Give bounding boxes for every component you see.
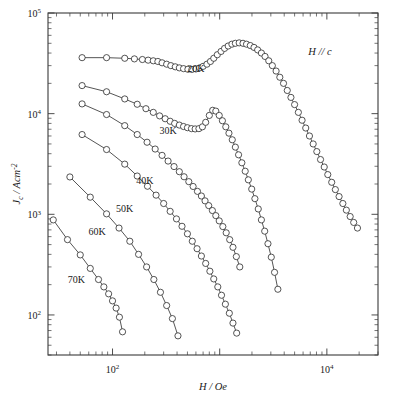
data-point [284, 87, 290, 93]
data-point [271, 269, 277, 275]
series-label-40K: 40K [136, 175, 154, 186]
data-point [144, 139, 150, 145]
series-label-30K: 30K [159, 125, 177, 136]
data-point [79, 131, 85, 137]
data-point [325, 172, 331, 178]
data-point [134, 101, 140, 107]
data-point [249, 186, 255, 192]
data-point [164, 302, 170, 308]
data-point [223, 124, 229, 130]
figure-panel: 102104 102103104105 20K30K40K50K60K70K H… [0, 0, 396, 399]
data-point [184, 231, 190, 237]
data-point [157, 289, 163, 295]
data-point [306, 133, 312, 139]
data-point [310, 141, 316, 147]
data-point [159, 152, 165, 158]
data-point [122, 55, 128, 61]
x-axis-title: H / Oe [198, 381, 227, 392]
data-point [152, 146, 158, 152]
data-point [223, 230, 229, 236]
data-point [220, 223, 226, 229]
data-point [219, 118, 225, 124]
data-point [232, 144, 238, 150]
data-point [299, 117, 305, 123]
data-point [226, 130, 232, 136]
y-tick-label: 102 [28, 309, 42, 321]
y-tick-labels: 102103104105 [28, 7, 42, 321]
axis-ticks [48, 13, 378, 355]
data-point [122, 161, 128, 167]
data-point [265, 241, 271, 247]
series-label-70K: 70K [68, 274, 86, 285]
data-point [203, 119, 209, 125]
data-point [179, 223, 185, 229]
data-point [218, 292, 224, 298]
y-tick-label: 103 [28, 209, 42, 221]
data-point [280, 80, 286, 86]
data-point [171, 163, 177, 169]
data-point [87, 265, 93, 271]
jc-vs-field-chart: 102104 102103104105 20K30K40K50K60K70K H… [0, 0, 396, 399]
data-point [203, 260, 209, 266]
data-point [252, 196, 258, 202]
data-point [113, 305, 119, 311]
data-point [103, 211, 109, 217]
y-tick-label: 105 [28, 7, 42, 19]
data-point [175, 333, 181, 339]
data-point [79, 101, 85, 107]
data-point [194, 246, 200, 252]
data-point [103, 146, 109, 152]
data-point [347, 213, 353, 219]
data-point [230, 244, 236, 250]
data-point [165, 158, 171, 164]
h-parallel-c-annotation: H // c [307, 46, 332, 57]
data-point [216, 218, 222, 224]
data-point [143, 106, 149, 112]
data-point [255, 206, 261, 212]
data-point [235, 152, 241, 158]
data-point [317, 156, 323, 162]
data-point [161, 200, 167, 206]
series-60K [67, 174, 181, 339]
data-point [181, 174, 187, 180]
data-point [122, 123, 128, 129]
data-point [227, 237, 233, 243]
data-point [116, 225, 122, 231]
data-point [103, 55, 109, 61]
data-point [211, 276, 217, 282]
data-point [67, 174, 73, 180]
data-point [50, 217, 56, 223]
data-point [106, 291, 112, 297]
data-point [215, 284, 221, 290]
data-point [329, 179, 335, 185]
data-point [122, 96, 128, 102]
data-point [64, 237, 70, 243]
data-point [131, 56, 137, 62]
data-point [127, 238, 133, 244]
data-point [144, 264, 150, 270]
data-point [269, 63, 275, 69]
series-line [82, 43, 357, 228]
data-point [233, 253, 239, 259]
data-point [288, 94, 294, 100]
data-point [198, 253, 204, 259]
data-point [275, 286, 281, 292]
data-point [176, 169, 182, 175]
data-point [169, 315, 175, 321]
data-point [101, 284, 107, 290]
data-point [229, 137, 235, 143]
data-point [116, 314, 122, 320]
data-point [273, 68, 279, 74]
data-point [230, 320, 236, 326]
data-point [167, 208, 173, 214]
data-point [222, 301, 228, 307]
data-point [103, 111, 109, 117]
data-point [134, 131, 140, 137]
data-point [87, 194, 93, 200]
plot-frame [48, 13, 378, 355]
data-point [109, 298, 115, 304]
series-label-60K: 60K [89, 226, 107, 237]
data-point [242, 168, 248, 174]
data-point [226, 310, 232, 316]
data-point [332, 186, 338, 192]
